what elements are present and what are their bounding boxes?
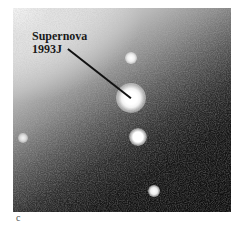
star-bottom: [148, 185, 160, 197]
star-middle: [129, 128, 147, 146]
panel-caption: c: [16, 212, 20, 223]
supernova-label-line2: 1993J: [32, 43, 87, 56]
supernova-label: Supernova 1993J: [32, 30, 87, 56]
star-top: [125, 52, 137, 64]
supernova-photograph: Supernova 1993J: [13, 8, 231, 212]
star-left: [18, 133, 28, 143]
